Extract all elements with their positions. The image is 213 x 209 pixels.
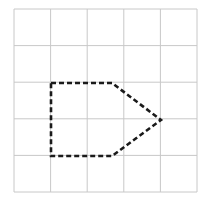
dashed-pentagon (51, 83, 161, 156)
grid-diagram (0, 0, 213, 209)
grid (14, 9, 197, 192)
